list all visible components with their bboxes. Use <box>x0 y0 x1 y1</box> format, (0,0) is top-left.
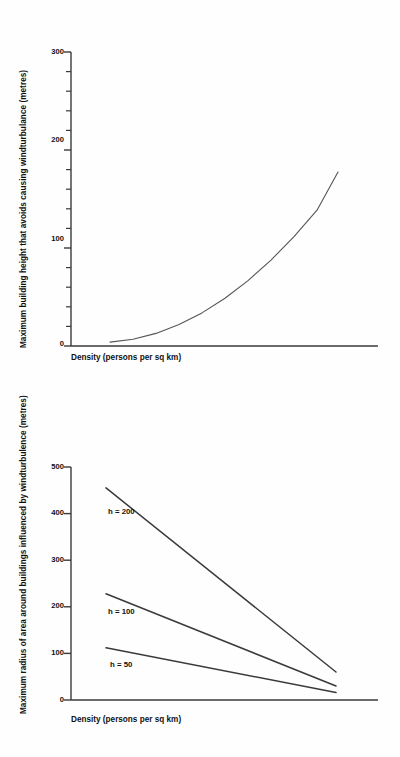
x-axis-title: Density (persons per sq km) <box>71 716 181 724</box>
data-curve-building-height <box>110 172 338 342</box>
series-label-h-50: h = 50 <box>110 661 132 669</box>
chart-building-height: Maximum building height that avoids caus… <box>0 0 400 380</box>
series-label-h-100: h = 100 <box>108 608 135 616</box>
data-line-h-200 <box>106 488 336 672</box>
figure-page: Maximum building height that avoids caus… <box>0 0 400 757</box>
plot-area-1 <box>0 0 400 380</box>
chart-influence-radius: Maximum radius of area around buildings … <box>0 380 400 757</box>
plot-area-2 <box>0 380 400 757</box>
data-line-h-100 <box>106 594 336 686</box>
y-major-ticks <box>64 467 71 700</box>
series-label-h-200: h = 200 <box>108 508 135 516</box>
data-line-h-50 <box>106 648 336 693</box>
x-axis-title: Density (persons per sq km) <box>71 354 181 362</box>
y-minor-ticks <box>66 72 71 327</box>
y-major-ticks <box>64 52 71 346</box>
